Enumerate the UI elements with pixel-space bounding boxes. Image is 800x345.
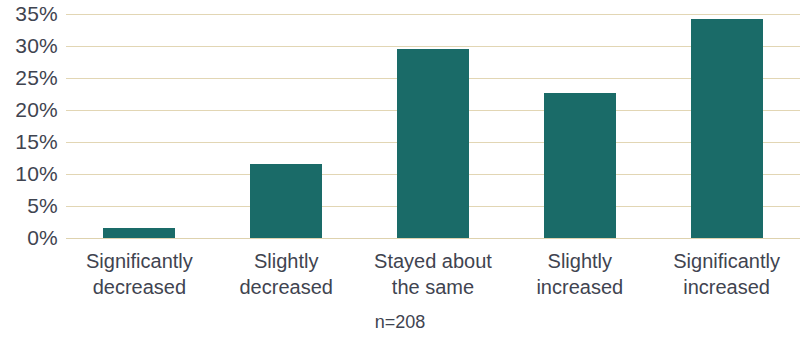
bar: [397, 49, 469, 238]
y-tick-label: 20%: [15, 98, 58, 122]
x-axis-category-line: Significantly: [66, 248, 213, 274]
y-tick-label: 25%: [15, 66, 58, 90]
y-tick-label: 0%: [27, 226, 58, 250]
x-axis-category-label: Stayed aboutthe same: [360, 248, 507, 300]
y-tick-label: 35%: [15, 2, 58, 26]
x-axis-category-line: increased: [653, 274, 800, 300]
y-tick-label: 30%: [15, 34, 58, 58]
x-axis-category-line: Slightly: [506, 248, 653, 274]
x-axis-category-label: Significantlyincreased: [653, 248, 800, 300]
gridline: [66, 238, 800, 239]
y-tick-label: 5%: [27, 194, 58, 218]
bar: [250, 164, 322, 238]
x-axis-category-line: increased: [506, 274, 653, 300]
bar: [691, 19, 763, 238]
plot-area: [66, 14, 800, 238]
bars: [66, 14, 800, 238]
bar: [103, 228, 175, 238]
x-axis-category-label: Slightlyincreased: [506, 248, 653, 300]
x-axis-category-line: Stayed about: [360, 248, 507, 274]
y-tick-label: 10%: [15, 162, 58, 186]
x-axis-category-line: Slightly: [213, 248, 360, 274]
x-axis-category-line: decreased: [213, 274, 360, 300]
x-axis-category-line: Significantly: [653, 248, 800, 274]
x-axis-category-line: decreased: [66, 274, 213, 300]
x-axis-category-label: Slightlydecreased: [213, 248, 360, 300]
bar: [544, 93, 616, 238]
x-axis-category-label: Significantlydecreased: [66, 248, 213, 300]
x-axis-category-line: the same: [360, 274, 507, 300]
sample-size-annotation: n=208: [0, 312, 800, 333]
bar-chart: 35% 30% 25% 20% 15% 10% 5% 0% Significan…: [0, 0, 800, 345]
y-tick-label: 15%: [15, 130, 58, 154]
x-axis: SignificantlydecreasedSlightlydecreasedS…: [66, 248, 800, 308]
y-axis: 35% 30% 25% 20% 15% 10% 5% 0%: [0, 0, 66, 246]
